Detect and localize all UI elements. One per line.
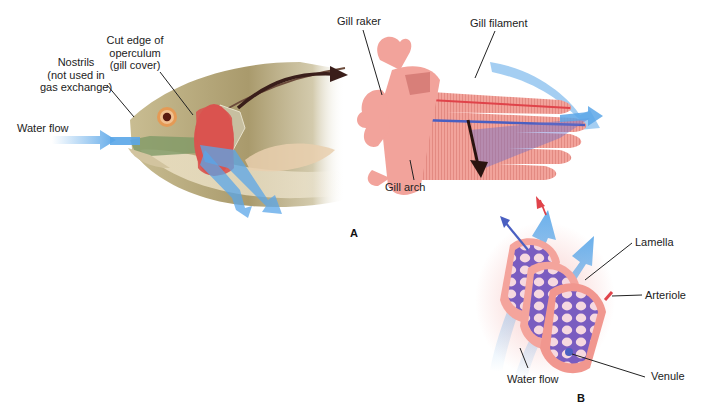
water-flow-label-b: Water flow (507, 373, 559, 386)
panel-letter-b: B (577, 392, 585, 404)
water-flow-label-a: Water flow (17, 122, 69, 135)
gill-filament-label: Gill filament (470, 17, 527, 30)
operculum-label: Cut edge of operculum (gill cover) (100, 34, 170, 72)
gill-arch-illustration (357, 37, 603, 195)
lamella-label: Lamella (635, 236, 674, 249)
arteriole-label: Arteriole (645, 289, 686, 302)
panel-letter-a: A (350, 227, 358, 239)
lamellae-illustration (475, 196, 615, 382)
gill-anatomy-figure: Nostrils (not used in gas exchange) Cut … (0, 0, 703, 413)
venule-label: Venule (651, 370, 685, 383)
gill-raker-label: Gill raker (337, 15, 381, 28)
gill-arch-label: Gill arch (385, 181, 425, 194)
